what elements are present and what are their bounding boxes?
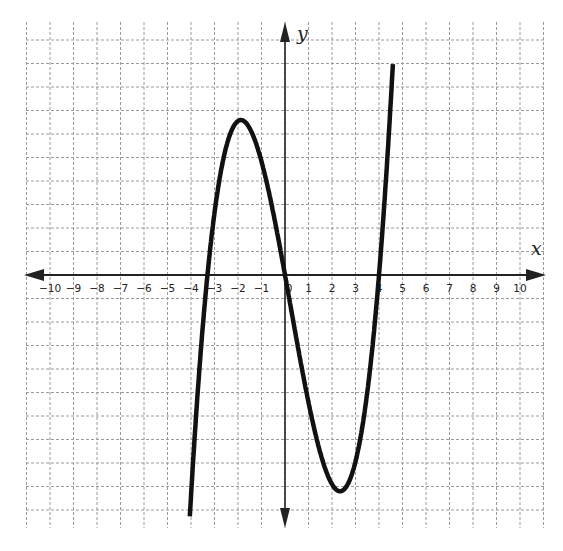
x-tick-label: 7	[446, 282, 453, 294]
x-tick-label: −2	[230, 282, 245, 294]
x-tick-label: 9	[493, 282, 500, 294]
x-tick-label: 6	[423, 282, 430, 294]
x-tick-label: 3	[352, 282, 359, 294]
x-axis-label: x	[531, 237, 542, 259]
y-axis-down-arrow-icon	[280, 508, 290, 528]
cubic-function-graph: −10−9−8−7−6−5−4−3−2−1012345678910 x y	[0, 0, 563, 551]
x-tick-label: 1	[305, 282, 312, 294]
x-tick-label: −9	[66, 282, 81, 294]
x-tick-label: −1	[254, 282, 269, 294]
x-tick-label: 2	[329, 282, 336, 294]
x-tick-label: 5	[399, 282, 406, 294]
x-tick-label: −5	[160, 282, 175, 294]
x-tick-label: 8	[470, 282, 477, 294]
y-axis-label: y	[296, 22, 308, 44]
y-axis-up-arrow-icon	[280, 22, 290, 42]
x-tick-label: −4	[183, 282, 199, 294]
x-tick-label: −7	[113, 282, 128, 294]
x-tick-labels: −10−9−8−7−6−5−4−3−2−1012345678910	[39, 282, 527, 294]
x-tick-label: 10	[513, 282, 526, 294]
x-tick-label: −8	[89, 282, 104, 294]
x-tick-label: −10	[39, 282, 61, 294]
x-tick-label: −3	[207, 282, 222, 294]
x-tick-label: −6	[136, 282, 152, 294]
